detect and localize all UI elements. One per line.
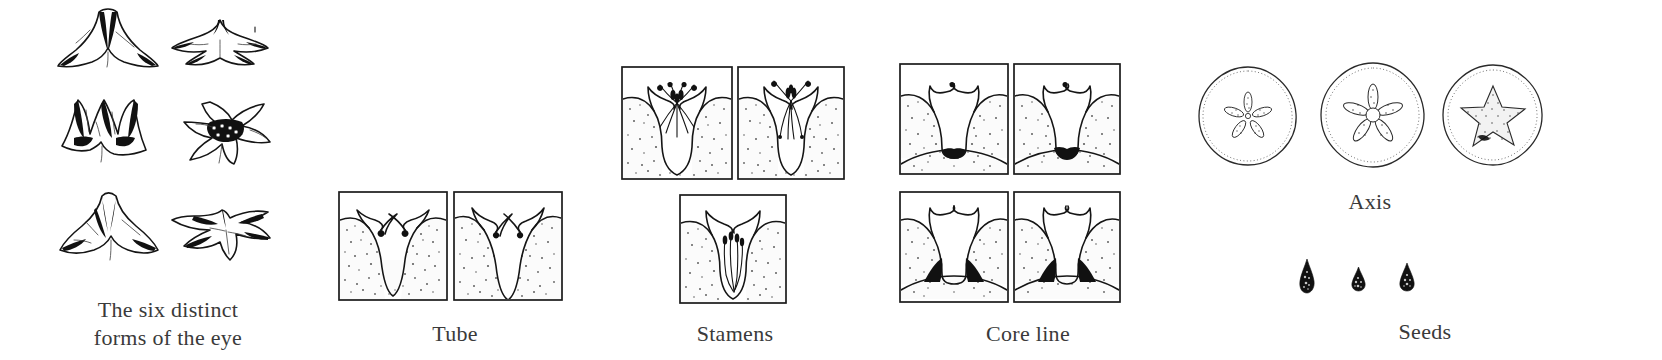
stamens-panel-3 [678,193,788,305]
core-panel-4 [1012,190,1122,304]
caption-eye-forms: The six distinct forms of the eye [68,296,268,351]
eye-form-3 [56,88,166,166]
core-panel-2 [1012,62,1122,176]
axis-circle-1 [1196,64,1300,168]
tube-panel-1 [337,190,449,302]
caption-axis: Axis [1285,188,1455,216]
caption-core-line: Core line [948,320,1108,348]
eye-form-6 [170,200,278,262]
seed-1 [1297,258,1317,294]
illustration-plate: The six distinct forms of the eye [0,0,1662,360]
seed-3 [1398,262,1416,292]
core-panel-3 [898,190,1010,304]
tube-panel-2 [452,190,564,302]
caption-stamens: Stamens [655,320,815,348]
axis-circle-2 [1318,60,1428,170]
eye-form-2 [168,14,276,74]
eye-form-5 [56,192,168,266]
caption-tube: Tube [380,320,530,348]
core-panel-1 [898,62,1010,176]
stamens-panel-1 [620,65,734,181]
eye-form-1 [52,6,164,78]
stamens-panel-2 [736,65,846,181]
axis-circle-3 [1440,62,1546,168]
seed-2 [1350,266,1367,292]
caption-seeds: Seeds [1340,318,1510,346]
eye-form-4 [172,100,278,166]
